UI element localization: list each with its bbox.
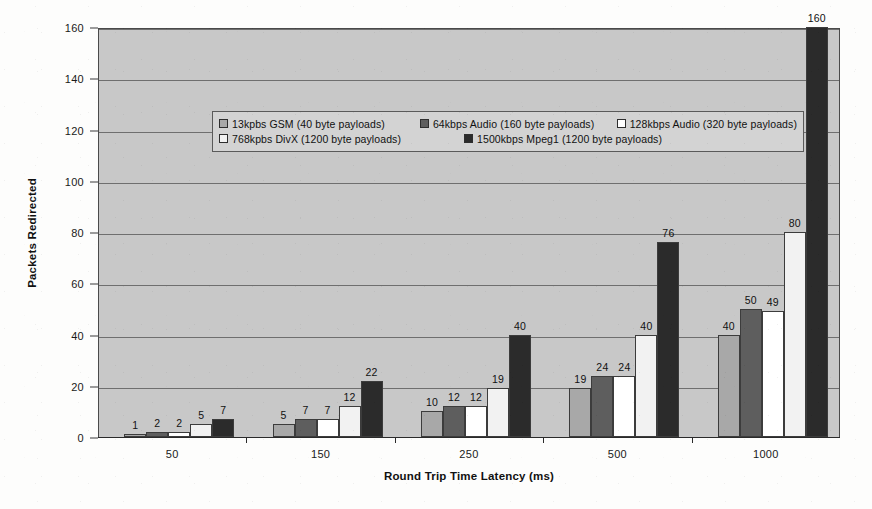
legend-row: 13kpbs GSM (40 byte payloads)64kbps Audi… xyxy=(219,116,797,131)
bar-value-label: 2 xyxy=(176,417,182,429)
y-tick-mark xyxy=(90,181,98,182)
legend-swatch-icon xyxy=(420,119,429,128)
y-axis-title: Packets Redirected xyxy=(26,28,42,438)
legend-label: 128kbps Audio (320 byte payloads) xyxy=(630,118,797,130)
bar-value-label: 12 xyxy=(448,391,460,403)
bar-value-label: 7 xyxy=(325,404,331,416)
y-tick-label: 60 xyxy=(71,278,84,290)
bar xyxy=(212,419,234,437)
bar-value-label: 12 xyxy=(470,391,482,403)
bar-value-label: 5 xyxy=(281,409,287,421)
y-tick-mark xyxy=(90,233,98,234)
x-tick-mark xyxy=(543,437,544,443)
bar xyxy=(806,27,828,437)
y-tick-mark xyxy=(90,284,98,285)
y-tick-label: 120 xyxy=(65,125,84,137)
y-tick-mark xyxy=(90,335,98,336)
x-tick-label: 250 xyxy=(459,448,478,460)
legend-row: 768kpbs DivX (1200 byte payloads)1500kbp… xyxy=(219,131,797,146)
legend-item: 128kbps Audio (320 byte payloads) xyxy=(617,118,797,130)
bar xyxy=(443,406,465,437)
bar-value-label: 76 xyxy=(662,227,674,239)
bar xyxy=(190,424,212,437)
y-tick-mark xyxy=(90,438,98,439)
bar-value-label: 160 xyxy=(808,12,826,24)
bar-value-label: 12 xyxy=(344,391,356,403)
chart-legend: 13kpbs GSM (40 byte payloads)64kbps Audi… xyxy=(212,111,804,152)
legend-swatch-icon xyxy=(617,119,626,128)
legend-item: 13kpbs GSM (40 byte payloads) xyxy=(219,118,420,130)
x-axis-title: Round Trip Time Latency (ms) xyxy=(98,470,840,482)
bar xyxy=(465,406,487,437)
x-tick-mark xyxy=(692,437,693,443)
bar-value-label: 24 xyxy=(596,361,608,373)
bar xyxy=(317,419,339,437)
y-tick-label: 0 xyxy=(78,432,84,444)
x-axis-line xyxy=(98,437,840,438)
bar-value-label: 1 xyxy=(132,419,138,431)
legend-swatch-icon xyxy=(464,134,473,143)
bar xyxy=(591,376,613,438)
bar xyxy=(361,381,383,437)
scanned-page: 020406080100120140160 Packets Redirected… xyxy=(0,0,872,509)
bar xyxy=(295,419,317,437)
bar-value-label: 19 xyxy=(492,373,504,385)
y-axis: 020406080100120140160 xyxy=(0,28,98,438)
bar xyxy=(339,406,361,437)
x-tick-label: 50 xyxy=(166,448,179,460)
bar xyxy=(784,232,806,437)
bar xyxy=(569,388,591,437)
legend-item: 1500kbps Mpeg1 (1200 byte payloads) xyxy=(464,133,704,145)
y-tick-label: 100 xyxy=(65,176,84,188)
legend-label: 768kpbs DivX (1200 byte payloads) xyxy=(232,133,401,145)
bar-chart-figure: 020406080100120140160 Packets Redirected… xyxy=(0,0,872,509)
bar xyxy=(421,411,443,437)
bars-layer: 1225757712221012121940192424407640504980… xyxy=(99,29,839,437)
bar xyxy=(487,388,509,437)
legend-label: 13kpbs GSM (40 byte payloads) xyxy=(232,118,385,130)
bar xyxy=(635,335,657,438)
legend-item: 768kpbs DivX (1200 byte payloads) xyxy=(219,133,464,145)
bar-value-label: 50 xyxy=(745,294,757,306)
bar-value-label: 10 xyxy=(426,396,438,408)
bar-value-label: 80 xyxy=(789,217,801,229)
bar xyxy=(762,311,784,437)
x-tick-label: 150 xyxy=(311,448,330,460)
bar-value-label: 19 xyxy=(574,373,586,385)
legend-swatch-icon xyxy=(219,119,228,128)
y-tick-mark xyxy=(90,386,98,387)
bar xyxy=(740,309,762,437)
y-tick-label: 40 xyxy=(71,330,84,342)
y-tick-mark xyxy=(90,28,98,29)
bar-value-label: 2 xyxy=(154,417,160,429)
y-tick-mark xyxy=(90,130,98,131)
y-tick-label: 80 xyxy=(71,227,84,239)
bar-value-label: 24 xyxy=(618,361,630,373)
legend-label: 1500kbps Mpeg1 (1200 byte payloads) xyxy=(477,133,662,145)
x-tick-mark xyxy=(246,437,247,443)
y-tick-label: 160 xyxy=(65,22,84,34)
y-tick-mark xyxy=(90,79,98,80)
bar-value-label: 40 xyxy=(514,320,526,332)
bar-value-label: 7 xyxy=(220,404,226,416)
bar-value-label: 7 xyxy=(303,404,309,416)
bar xyxy=(273,424,295,437)
bar-value-label: 22 xyxy=(366,366,378,378)
y-tick-label: 140 xyxy=(65,73,84,85)
bar-value-label: 49 xyxy=(767,296,779,308)
bar xyxy=(509,335,531,438)
x-tick-label: 500 xyxy=(608,448,627,460)
bar xyxy=(613,376,635,438)
bar xyxy=(718,335,740,438)
bar xyxy=(657,242,679,437)
legend-item: 64kbps Audio (160 byte payloads) xyxy=(420,118,617,130)
legend-swatch-icon xyxy=(219,134,228,143)
bar-value-label: 5 xyxy=(198,409,204,421)
bar-value-label: 40 xyxy=(640,320,652,332)
bar-value-label: 40 xyxy=(723,320,735,332)
plot-area: 1225757712221012121940192424407640504980… xyxy=(98,28,840,438)
x-tick-mark xyxy=(395,437,396,443)
y-tick-label: 20 xyxy=(71,381,84,393)
x-tick-label: 1000 xyxy=(753,448,779,460)
legend-label: 64kbps Audio (160 byte payloads) xyxy=(433,118,594,130)
